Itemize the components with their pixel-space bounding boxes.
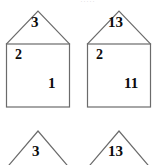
worksheet-canvas: = ..... 3 2 1 13 2 11 3 13 [0, 0, 152, 165]
house-left-wall-top-left-value: 2 [15, 48, 22, 62]
house-right-roof-value: 13 [108, 15, 123, 30]
roof-bottom-right-value: 13 [108, 144, 123, 159]
roof-bottom-left-value: 3 [32, 144, 40, 159]
house-left-wall-bottom-right-value: 1 [48, 76, 56, 91]
house-right-wall-bottom-right-value: 11 [124, 76, 138, 91]
house-left-roof-value: 3 [31, 15, 39, 30]
house-right-wall-top-left-value: 2 [96, 48, 103, 62]
